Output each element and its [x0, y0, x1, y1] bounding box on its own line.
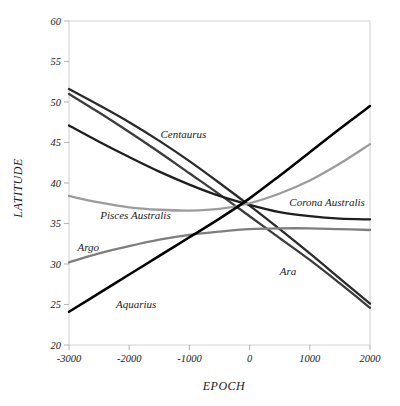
chart-container: 202530354045505560-3000-2000-10000100020…	[0, 0, 400, 406]
x-tick-label: -3000	[57, 353, 82, 364]
x-tick-label: 1000	[299, 353, 321, 364]
x-axis-title: EPOCH	[202, 379, 246, 393]
x-tick-label: -1000	[177, 353, 202, 364]
y-tick-label: 30	[50, 259, 62, 270]
series-label-pisces-australis: Pisces Australis	[99, 209, 170, 221]
series-line-argo	[69, 228, 370, 262]
y-tick-label: 20	[51, 340, 62, 351]
x-tick-label: -2000	[117, 353, 142, 364]
y-axis-title: LATITUDE	[11, 158, 25, 219]
series-label-argo: Argo	[76, 241, 99, 253]
series-label-corona-australis: Corona Australis	[289, 196, 365, 208]
y-tick-label: 55	[51, 56, 62, 67]
y-tick-label: 25	[51, 299, 62, 310]
y-tick-label: 35	[50, 218, 62, 229]
y-tick-label: 60	[51, 16, 62, 27]
series-label-ara: Ara	[279, 265, 297, 277]
x-tick-label: 2000	[360, 353, 382, 364]
axis-ticks	[64, 21, 370, 350]
tick-labels: 202530354045505560-3000-2000-10000100020…	[50, 16, 382, 364]
x-tick-label: 0	[247, 353, 253, 364]
y-tick-label: 50	[51, 97, 62, 108]
line-chart: 202530354045505560-3000-2000-10000100020…	[0, 0, 400, 406]
y-tick-label: 45	[51, 137, 62, 148]
series-label-aquarius: Aquarius	[115, 298, 156, 310]
series-label-centaurus: Centaurus	[161, 128, 207, 140]
y-tick-label: 40	[51, 178, 62, 189]
